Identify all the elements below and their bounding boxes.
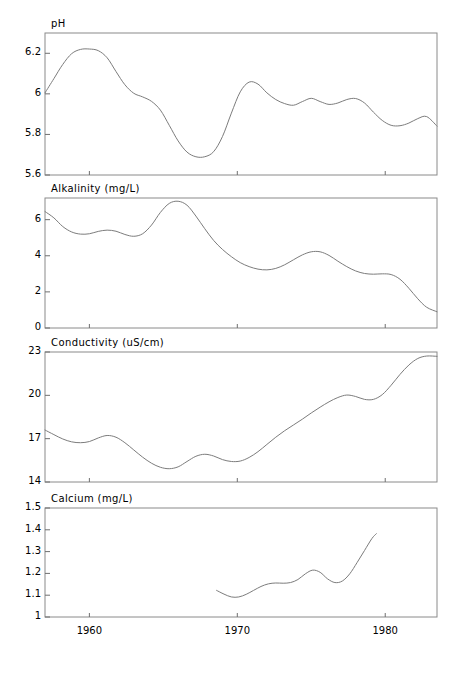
x-tick-label: 1960 xyxy=(59,625,119,636)
series-line xyxy=(45,201,437,312)
y-tick-label: 1 xyxy=(35,610,41,621)
y-tick-label: 5.8 xyxy=(25,127,41,138)
panel-title: pH xyxy=(51,18,66,29)
y-tick-label: 1.4 xyxy=(25,523,41,534)
y-tick-label: 14 xyxy=(28,475,41,486)
panel-frame xyxy=(45,352,437,482)
y-tick-label: 0 xyxy=(35,321,41,332)
series-line xyxy=(45,356,437,469)
multi-panel-timeseries-figure: 5.65.866.2pH0246Alkalinity (mg/L)1417202… xyxy=(0,0,456,674)
y-tick-label: 20 xyxy=(28,388,41,399)
y-tick-label: 1.2 xyxy=(25,566,41,577)
x-tick-label: 1980 xyxy=(355,625,415,636)
series-line xyxy=(217,534,377,598)
y-tick-label: 5.6 xyxy=(25,168,41,179)
y-tick-label: 6 xyxy=(35,213,41,224)
y-tick-label: 4 xyxy=(35,249,41,260)
y-tick-label: 17 xyxy=(28,432,41,443)
y-tick-label: 1.1 xyxy=(25,588,41,599)
series-line xyxy=(45,49,437,157)
y-tick-label: 6.2 xyxy=(25,46,41,57)
y-tick-label: 2 xyxy=(35,285,41,296)
y-tick-label: 1.3 xyxy=(25,545,41,556)
y-tick-label: 1.5 xyxy=(25,501,41,512)
panel-title: Conductivity (uS/cm) xyxy=(51,337,164,348)
y-tick-label: 6 xyxy=(35,87,41,98)
panel-title: Calcium (mg/L) xyxy=(51,493,133,504)
x-tick-label: 1970 xyxy=(207,625,267,636)
y-tick-label: 23 xyxy=(28,345,41,356)
panel-title: Alkalinity (mg/L) xyxy=(51,183,140,194)
panel-frame xyxy=(45,508,437,617)
